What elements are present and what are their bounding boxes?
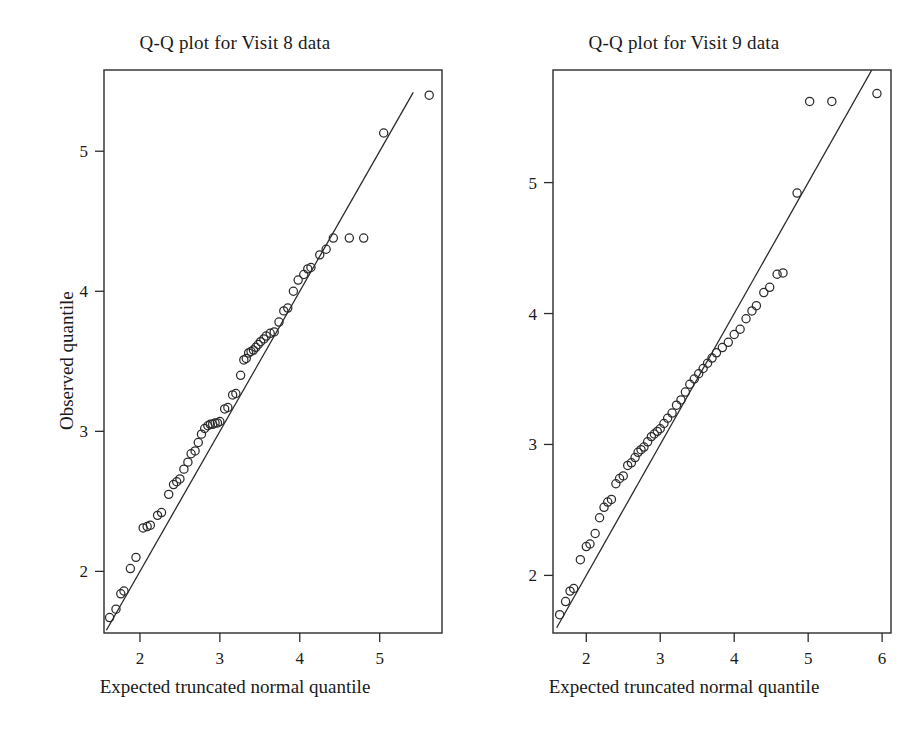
data-point [556,611,564,619]
data-point [668,409,676,417]
data-point [873,89,881,97]
data-point [126,564,134,572]
y-tick-label: 2 [80,562,89,581]
data-point [165,490,173,498]
data-point [216,417,224,425]
data-point [576,556,584,564]
y-tick-label: 4 [529,305,538,324]
x-tick-label: 3 [216,649,225,668]
data-point [300,270,308,278]
data-point [194,438,202,446]
data-point [105,613,113,621]
data-point [360,234,368,242]
x-tick-label: 4 [296,649,305,668]
data-point [766,283,774,291]
data-point [748,307,756,315]
x-axis-title-visit-8: Expected truncated normal quantile [0,676,470,698]
data-point [672,401,680,409]
data-point-group [105,91,433,622]
y-axis-title-visit-8: Observed quantile [56,291,78,430]
data-point [828,97,836,105]
data-point [724,338,732,346]
x-tick-label: 2 [582,649,591,668]
data-point [289,287,297,295]
x-tick-label: 3 [656,649,665,668]
data-point [793,189,801,197]
y-tick-label: 3 [529,435,538,454]
data-point [686,380,694,388]
x-axis-title-visit-9: Expected truncated normal quantile [449,676,919,698]
y-tick-label: 2 [529,566,538,585]
y-tick-label: 5 [80,142,89,161]
y-tick-label: 3 [80,422,89,441]
x-tick-label: 4 [730,649,739,668]
data-point [779,269,787,277]
data-point [677,396,685,404]
data-point [380,129,388,137]
data-point [237,371,245,379]
x-tick-label: 6 [878,649,887,668]
data-point [595,514,603,522]
data-point [561,597,569,605]
plot-area-visit-9: 234562345 [449,0,919,743]
x-tick-label: 5 [804,649,813,668]
data-point [806,97,814,105]
data-point [132,553,140,561]
data-point [681,388,689,396]
data-point [425,91,433,99]
qq-plot-figure: Q-Q plot for Visit 8 data 23452345 Obser… [0,0,919,743]
panel-visit-8: Q-Q plot for Visit 8 data 23452345 Obser… [0,0,470,743]
data-point [773,270,781,278]
data-point [591,529,599,537]
data-point-group [556,89,881,618]
data-point [736,325,744,333]
data-point [752,302,760,310]
x-tick-label: 5 [375,649,384,668]
data-point [184,458,192,466]
data-point [345,234,353,242]
y-tick-label: 5 [529,174,538,193]
x-tick-label: 2 [136,649,145,668]
data-point [742,315,750,323]
y-tick-label: 4 [80,282,89,301]
panel-visit-9: Q-Q plot for Visit 9 data 234562345 Obse… [449,0,919,743]
